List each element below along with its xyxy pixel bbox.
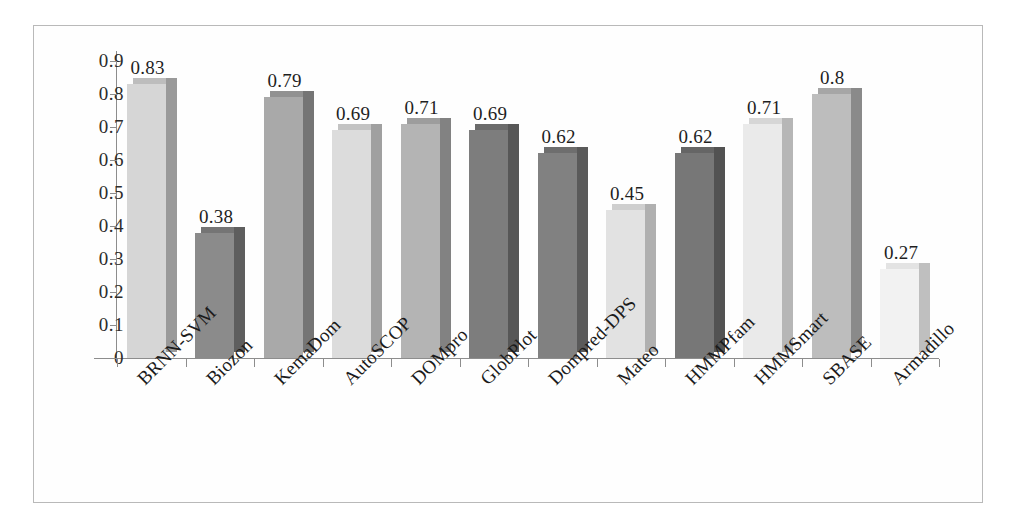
y-axis-tick-label: 0.5 [80,183,124,202]
bar-value-label: 0.8 [820,68,845,87]
y-axis-tick-label: 0.1 [80,315,124,334]
x-axis-tick-mark [597,359,598,367]
bar: 0.62 [675,153,714,358]
bar-value-label: 0.62 [541,127,575,146]
x-axis-tick-mark [939,359,940,367]
y-axis-tick-mark [110,193,117,194]
y-axis-tick-mark [110,358,117,359]
x-axis-tick-mark [734,359,735,367]
y-axis-tick-label: 0.3 [80,249,124,268]
bar-value-label: 0.62 [678,127,712,146]
y-axis-tick-label: 0.9 [80,51,124,70]
bar-side-face [714,147,725,352]
bar-value-label: 0.71 [747,98,781,117]
bar-value-label: 0.38 [199,207,233,226]
y-axis-tick-mark [110,160,117,161]
bar-side-face [782,118,793,352]
bar-front-face [675,153,714,358]
bar-front-face [469,130,508,358]
x-axis-tick-mark [460,359,461,367]
bar-value-label: 0.69 [473,104,507,123]
y-axis-tick-mark [110,325,117,326]
plot-area: 0.90.80.70.60.50.40.30.20.10 0.830.380.7… [34,26,984,504]
bar-value-label: 0.79 [267,71,301,90]
y-axis-tick-mark [110,226,117,227]
x-axis-tick-mark [802,359,803,367]
x-axis-tick-mark [254,359,255,367]
bar-front-face [880,269,919,358]
x-axis-tick-mark [323,359,324,367]
bar-value-label: 0.27 [884,243,918,262]
bar: 0.79 [264,97,303,358]
y-axis-tick-label: 0.4 [80,216,124,235]
bar-side-face [577,147,588,352]
bar-side-face [371,124,382,352]
y-axis-tick-label: 0.6 [80,150,124,169]
bar: 0.83 [127,84,166,358]
bar-side-face [851,88,862,352]
bar-side-face [645,204,656,353]
x-axis-tick-mark [391,359,392,367]
x-axis-tick-mark [528,359,529,367]
y-axis-tick-mark [110,127,117,128]
bar-side-face [440,118,451,352]
bar-value-label: 0.69 [336,104,370,123]
y-axis-tick-mark [110,292,117,293]
bar: 0.27 [880,269,919,358]
bar-front-face [264,97,303,358]
y-axis-tick-mark [110,94,117,95]
bar-side-face [234,227,245,352]
y-axis-tick-label: 0.8 [80,84,124,103]
bar-side-face [508,124,519,352]
bar: 0.38 [195,233,234,358]
bar: 0.62 [538,153,577,358]
x-axis-tick-mark [665,359,666,367]
bar-front-face [538,153,577,358]
x-axis-tick-mark [186,359,187,367]
y-axis-tick-label: 0.2 [80,282,124,301]
bar-value-label: 0.45 [610,184,644,203]
bar-side-face [166,78,177,352]
bar-value-label: 0.83 [130,58,164,77]
bar-value-label: 0.71 [404,98,438,117]
y-axis-tick-label: 0.7 [80,117,124,136]
chart-figure: 0.90.80.70.60.50.40.30.20.10 0.830.380.7… [33,25,983,503]
bar-front-face [127,84,166,358]
x-axis-tick-mark [871,359,872,367]
bar-front-face [195,233,234,358]
bar: 0.69 [469,130,508,358]
bar-side-face [303,91,314,352]
y-axis-tick-mark [110,61,117,62]
x-axis-tick-mark [117,359,118,367]
y-axis-tick-mark [110,259,117,260]
